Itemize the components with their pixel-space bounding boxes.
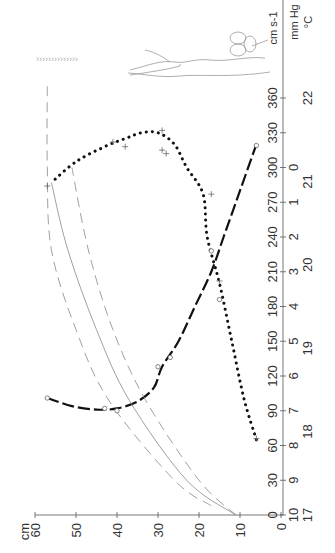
pressure-tick-label: 2 — [286, 233, 301, 240]
tick-labels: 0306090120150180210240270300330360109876… — [17, 4, 315, 540]
temp-tick-label: 18 — [300, 424, 315, 438]
svg-text:››››››››››››››: ›››››››››››››› — [36, 54, 78, 64]
pressure-tick-label: 8 — [286, 442, 301, 449]
temp-tick-label: 20 — [300, 258, 315, 272]
time-tick-label: 150 — [265, 330, 280, 352]
time-tick-label: 360 — [265, 87, 280, 109]
series-line — [47, 86, 211, 505]
curves — [47, 86, 256, 515]
time-tick-label: 210 — [265, 261, 280, 283]
plus-marker — [159, 127, 165, 133]
markers — [44, 127, 259, 441]
pressure-tick-label: 5 — [286, 338, 301, 345]
plus-marker — [253, 436, 259, 442]
temp-tick-label: 22 — [300, 91, 315, 105]
circle-marker — [45, 396, 49, 400]
plant-illustration: ›››››››››››››› — [36, 32, 270, 77]
pressure-tick-label: 3 — [286, 268, 301, 275]
circle-marker — [156, 365, 160, 369]
time-tick-label: 270 — [265, 191, 280, 213]
unit-label: cm s-1 — [267, 12, 279, 45]
circle-marker — [168, 355, 172, 359]
length-tick-label: 0 — [274, 523, 289, 530]
unit-label: mm Hg — [288, 4, 300, 39]
time-tick-label: 30 — [265, 473, 280, 487]
time-tick-label: 90 — [265, 404, 280, 418]
temp-tick-label: 19 — [300, 341, 315, 355]
plus-marker — [163, 151, 169, 157]
time-tick-label: 0 — [265, 511, 280, 518]
circle-marker — [103, 406, 107, 410]
pressure-tick-label: 6 — [286, 372, 301, 379]
length-unit-label: cm — [17, 523, 32, 540]
pressure-tick-label: 1 — [286, 199, 301, 206]
series-line — [47, 144, 256, 409]
plus-marker — [44, 183, 50, 189]
time-tick-label: 330 — [265, 122, 280, 144]
unit-label: °C — [302, 16, 314, 28]
pressure-tick-label: 7 — [286, 407, 301, 414]
time-tick-label: 60 — [265, 438, 280, 452]
pressure-tick-label: 0 — [286, 164, 301, 171]
length-tick-label: 40 — [110, 523, 125, 537]
plus-marker — [122, 144, 128, 150]
pressure-tick-label: 10 — [286, 508, 301, 522]
temp-tick-label: 21 — [300, 174, 315, 188]
time-tick-label: 120 — [265, 365, 280, 387]
chart: 0306090120150180210240270300330360109876… — [0, 0, 335, 553]
plus-marker — [159, 147, 165, 153]
series-line — [51, 132, 256, 440]
circle-marker — [217, 297, 221, 301]
time-tick-label: 240 — [265, 226, 280, 248]
pressure-tick-label: 4 — [286, 303, 301, 310]
circle-marker — [115, 409, 119, 413]
temp-tick-label: 17 — [300, 508, 315, 522]
plus-marker — [208, 191, 214, 197]
circle-marker — [254, 143, 258, 147]
length-tick-label: 50 — [69, 523, 84, 537]
time-tick-label: 300 — [265, 157, 280, 179]
series-line — [51, 183, 236, 515]
length-tick-label: 20 — [192, 523, 207, 537]
length-tick-label: 10 — [233, 523, 248, 537]
axes — [35, 0, 286, 518]
series-line — [72, 168, 236, 516]
length-tick-label: 30 — [151, 523, 166, 537]
circle-marker — [209, 249, 213, 253]
pressure-tick-label: 9 — [286, 477, 301, 484]
time-tick-label: 180 — [265, 296, 280, 318]
